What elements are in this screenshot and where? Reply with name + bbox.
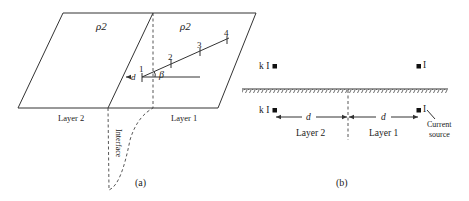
current-source-label-line2: source: [429, 130, 450, 139]
electrode-2-label: 2: [168, 52, 173, 62]
source-bottom-marker: [417, 108, 422, 113]
resistivity-label-left: ρ2: [95, 20, 107, 32]
source-bottom-label: I: [423, 104, 426, 114]
interface-surface-line: [108, 13, 153, 108]
survey-line: [142, 38, 229, 77]
ground-surface-plane: [18, 13, 256, 108]
image-source-top-marker: [273, 64, 278, 69]
source-top-label: I: [423, 60, 426, 70]
distance-label-right: d: [381, 112, 386, 122]
panel-b-caption: (b): [336, 177, 348, 189]
layer-2-label: Layer 2: [58, 113, 84, 123]
figure: ρ2 ρ2 1 2 3 4 β d Layer 2 Layer 1 Interf…: [0, 0, 469, 201]
angle-label: β: [158, 69, 164, 80]
image-source-bottom-marker: [273, 108, 278, 113]
resistivity-label-right: ρ2: [179, 20, 191, 32]
panel-a-caption: (a): [135, 177, 146, 189]
electrode-1-label: 1: [139, 64, 144, 74]
layer-1-label-b: Layer 1: [369, 128, 399, 138]
panel-a: ρ2 ρ2 1 2 3 4 β d Layer 2 Layer 1 Interf…: [18, 13, 256, 190]
distance-label-left: d: [306, 112, 311, 122]
panel-b: k I I k I I d d Layer 2 Layer 1 Current …: [242, 60, 452, 189]
electrode-4-label: 4: [224, 28, 229, 38]
layer-2-label-b: Layer 2: [296, 128, 326, 138]
source-top-marker: [417, 64, 422, 69]
ground-hatching: [242, 89, 448, 93]
electrode-3-label: 3: [197, 40, 202, 50]
angle-arc: [154, 72, 155, 78]
layer-1-label: Layer 1: [171, 113, 197, 123]
image-source-top-label: k I: [259, 61, 269, 71]
current-source-label-line1: Current: [427, 120, 452, 129]
distance-label: d: [131, 72, 136, 82]
image-source-bottom-label: k I: [259, 105, 269, 115]
source-leader-line: [427, 110, 435, 119]
interface-label: Interface: [114, 129, 123, 158]
